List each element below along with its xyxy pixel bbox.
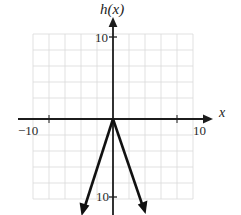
x-axis-tick-label-negative: −10 <box>18 124 38 137</box>
x-axis-label: x <box>219 106 225 120</box>
axes <box>18 17 213 215</box>
y-axis-arrowhead-icon <box>109 17 118 27</box>
function-graph-plot <box>0 0 241 215</box>
curve-right-branch <box>113 119 142 204</box>
curve-left-arrowhead-icon <box>80 202 90 215</box>
curve-right-arrowhead-icon <box>138 201 148 214</box>
x-axis-tick-label-positive: 10 <box>193 124 206 137</box>
y-axis-tick-label-positive: 10 <box>95 31 108 44</box>
graph-screenshot: h(x) x 10 −10 10 10 <box>0 0 241 215</box>
y-axis-label: h(x) <box>100 2 124 17</box>
y-axis-tick-label-negative: 10 <box>96 190 109 203</box>
